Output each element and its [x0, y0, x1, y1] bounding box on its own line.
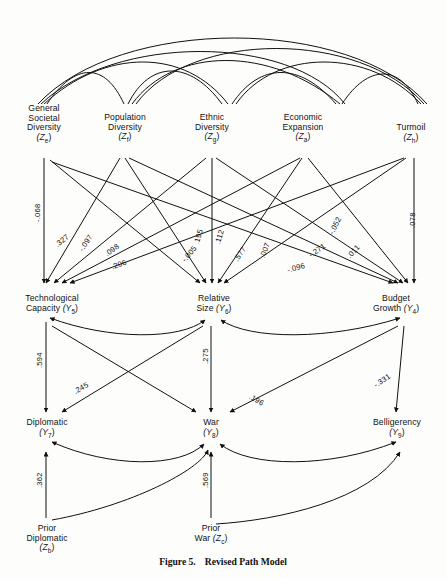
bottom-exogenous-paths [46, 450, 400, 524]
node-economic-expansion: Economic Expansion (Za) [265, 113, 341, 143]
diagram-edges [0, 0, 446, 579]
coefficient-zc-y8: .569 [201, 472, 210, 488]
node-relative-size: Relative Size (Y6) [168, 294, 260, 315]
node-symbol: (Zh) [380, 133, 442, 144]
node-budget-growth: Budget Growth (Y4) [348, 294, 444, 315]
coefficient-y5-y7: .594 [35, 352, 44, 368]
node-symbol: (Y7) [4, 428, 90, 439]
node-turmoil: Turmoil (Zh) [380, 123, 442, 144]
node-population-diversity: Population Diversity (Zf) [88, 113, 162, 143]
figure-number: Figure 5. [159, 556, 196, 567]
node-prior-diplomatic: Prior Diplomatic (Zb) [4, 524, 90, 554]
node-symbol: (Za) [265, 132, 341, 143]
figure-caption: Figure 5.Revised Path Model [0, 556, 446, 567]
node-symbol: Growth (Y4) [348, 304, 444, 315]
node-symbol: Size (Y6) [168, 304, 260, 315]
mid-correlation-arcs [50, 318, 400, 335]
node-ethnic-diversity: Ethnic Diversity (Zg) [176, 113, 248, 143]
node-war: War (Y8) [180, 418, 242, 439]
node-symbol: (Ze) [8, 133, 80, 144]
low-correlation-arcs [52, 442, 396, 462]
node-symbol: (Y9) [352, 428, 442, 439]
node-symbol: War (Zc) [172, 534, 250, 545]
exogenous-to-mid-paths [44, 158, 414, 283]
node-general-societal-diversity: General Societal Diversity (Ze) [8, 104, 80, 144]
node-symbol: (Zf) [88, 132, 162, 143]
node-symbol: Capacity (Y5) [0, 304, 104, 315]
mid-to-low-paths [46, 322, 404, 412]
coefficient-ze-y5: -.068 [33, 204, 42, 222]
figure-title: Revised Path Model [205, 556, 287, 567]
node-diplomatic: Diplomatic (Y7) [4, 418, 90, 439]
coefficient-zh-y4: .078 [408, 212, 417, 228]
coefficient-y6-y8: .275 [201, 348, 210, 364]
node-symbol: (Zb) [4, 543, 90, 554]
top-correlation-arcs [38, 38, 427, 104]
node-symbol: (Y8) [180, 428, 242, 439]
node-technological-capacity: Technological Capacity (Y5) [0, 294, 104, 315]
node-symbol: (Zg) [176, 132, 248, 143]
coefficient-zb-y7: .362 [35, 472, 44, 488]
path-diagram-figure: General Societal Diversity (Ze) Populati… [0, 0, 446, 579]
node-prior-war: Prior War (Zc) [172, 524, 250, 545]
node-belligerency: Belligerency (Y9) [352, 418, 442, 439]
